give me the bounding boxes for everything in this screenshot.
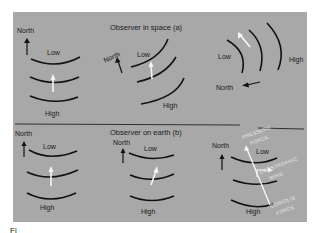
high-label: High [141,208,156,216]
north-arrow-icon [121,148,126,163]
isobar [130,196,174,201]
isobar [27,193,76,199]
wind-arrow-icon [151,166,159,185]
north-label: North [212,142,229,149]
wind-arrow-icon [238,32,250,47]
low-label: Low [47,49,61,56]
north-label: North [15,130,32,137]
diagram-a2: North Low High [102,39,184,110]
north-arrow-icon [220,154,225,170]
high-label: High [45,110,60,118]
diagram-a3: Low High North [216,23,304,91]
high-label: High [246,208,261,216]
diagram-a1: North Low High [17,27,80,118]
isobar [29,150,77,156]
north-arrow-icon [242,82,260,88]
isobar [231,200,273,207]
north-arrow-icon [24,38,30,55]
north-arrow-icon [22,141,27,157]
isobar [130,174,174,179]
isobar [137,57,176,82]
panel-b-title: Observer on earth (b) [110,128,182,137]
isobar [231,157,277,163]
wind-arrow-icon [49,166,54,186]
low-label: Low [144,145,158,152]
panel-a-title: Observer in space (a) [110,23,183,32]
isobar [129,153,174,159]
isobar [30,96,78,101]
low-label: Low [43,143,57,150]
panel-divider [15,124,240,125]
geostrophic-wind-label: WIND [268,170,284,181]
high-label: High [163,102,178,110]
low-label: Low [137,51,151,58]
high-label: High [289,56,304,64]
isobar [267,23,281,70]
north-arrow-icon [115,57,122,73]
low-label: Low [218,53,232,60]
high-label: High [40,204,55,212]
isobar [31,57,80,64]
diagram-b1: North Low High [15,130,78,212]
low-label: Low [256,148,270,155]
figure-caption: Fi [10,226,17,233]
geostrophic-wind-diagram: Observer in space (a) North Low High Nor… [0,0,318,233]
north-label: North [113,139,130,146]
diagram-b2: North Low High [113,139,174,216]
isobar [249,30,262,71]
isobar [141,78,184,104]
north-label: North [17,27,34,34]
diagram-b3: North Low PRESSURE FORCE GEOSTROPHIC WIN… [212,124,298,216]
north-label: North [216,84,233,91]
